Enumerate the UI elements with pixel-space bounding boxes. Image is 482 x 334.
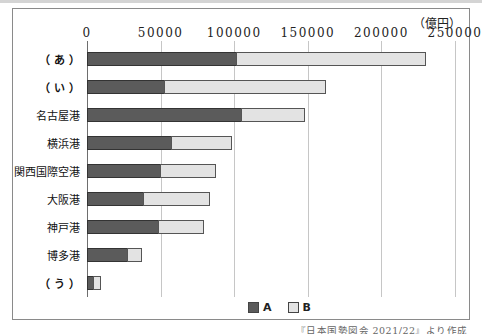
x-tick-label: 250000 [428,26,482,40]
bar-rows: （ あ ）（ い ）名古屋港横浜港関西国際空港大阪港神戸港博多港（ う ） [13,45,469,297]
chart-frame: （億円） 050000100000150000200000250000 （ あ … [12,8,470,320]
legend-swatch-b [288,302,299,313]
bar-segment-b [93,276,100,290]
bar-row: （ い ） [13,73,469,101]
legend-label: B [303,301,311,314]
legend-item: B [288,301,311,314]
bar-segment-b [241,108,306,122]
page-edge-strip [0,0,482,3]
bar-segment-b [143,192,209,206]
bar-segment-a [87,52,237,66]
bar-segment-a [87,136,172,150]
bar-row: 大阪港 [13,185,469,213]
category-label: 神戸港 [13,219,87,235]
bar-segment-b [127,248,142,262]
bar-segment-a [87,164,161,178]
bar-area [87,164,455,178]
bar-segment-b [158,220,204,234]
bar-segment-a [87,80,165,94]
bar-segment-a [87,220,159,234]
bar-area [87,136,455,150]
category-label: （ う ） [13,275,87,291]
source-caption: 『日本国勢図会 2021/22』より作成 [296,323,469,334]
category-label: 博多港 [13,247,87,263]
bar-area [87,108,455,122]
bar-area [87,80,455,94]
bar-row: 神戸港 [13,213,469,241]
bar-segment-a [87,248,128,262]
bar-segment-b [236,52,426,66]
legend-item: A [248,301,272,314]
bar-segment-b [171,136,231,150]
x-tick-label: 100000 [207,26,262,40]
x-tick-label: 200000 [354,26,409,40]
x-tick-label: 150000 [280,26,335,40]
bar-area [87,52,455,66]
bar-segment-a [87,108,242,122]
legend: AB [248,301,311,314]
bar-segment-a [87,192,144,206]
x-tick-label: 50000 [138,26,184,40]
category-label: 関西国際空港 [13,163,87,179]
category-label: 横浜港 [13,135,87,151]
bar-row: 関西国際空港 [13,157,469,185]
bar-area [87,192,455,206]
bar-row: 博多港 [13,241,469,269]
bar-row: 横浜港 [13,129,469,157]
bar-row: 名古屋港 [13,101,469,129]
legend-swatch-a [248,302,259,313]
category-label: （ い ） [13,79,87,95]
bar-segment-b [160,164,216,178]
bar-segment-b [164,80,326,94]
x-tick-label: 0 [82,26,91,40]
bar-area [87,248,455,262]
x-axis: 050000100000150000200000250000 [87,25,455,40]
bar-row: （ う ） [13,269,469,297]
plot-area: （ あ ）（ い ）名古屋港横浜港関西国際空港大阪港神戸港博多港（ う ） [13,45,469,297]
category-label: （ あ ） [13,51,87,67]
bar-row: （ あ ） [13,45,469,73]
bar-area [87,220,455,234]
category-label: 大阪港 [13,191,87,207]
bar-area [87,276,455,290]
category-label: 名古屋港 [13,107,87,123]
legend-label: A [263,301,272,314]
